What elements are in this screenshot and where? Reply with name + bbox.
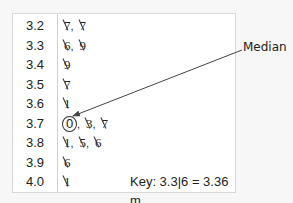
leaf-list: 7,7 [64, 16, 86, 36]
leaf-value: 1 [64, 133, 71, 152]
stem-value: 4.0 [26, 172, 52, 191]
leaf-list: 0,3,7 [64, 114, 108, 134]
leaf-value: 6 [95, 133, 102, 152]
leaf-value: 7 [80, 16, 87, 35]
stem-value: 3.7 [26, 114, 52, 133]
leaf-value: 7 [64, 75, 71, 94]
stem-value: 3.2 [26, 16, 52, 35]
stem-value: 3.3 [26, 36, 52, 55]
stem-value: 3.5 [26, 75, 52, 94]
plot-row: 3.96 [13, 153, 235, 172]
median-label: Median [243, 40, 287, 54]
stem-value: 3.8 [26, 133, 52, 152]
leaf-value: 9 [64, 55, 71, 74]
plot-row: 3.61 [13, 94, 235, 113]
leaf-value: 6 [64, 153, 71, 172]
leaf-list: 1 [64, 94, 71, 113]
leaf-value: 5 [80, 133, 87, 152]
leaf-value: 3 [86, 114, 93, 133]
leaf-value: 7 [102, 114, 109, 133]
stem-value: 3.4 [26, 55, 52, 74]
leaf-value: 9 [80, 36, 87, 55]
leaf-list: 1,5,6 [64, 133, 102, 153]
plot-row: 3.70,3,7 [13, 114, 235, 133]
leaf-list: 7 [64, 75, 71, 94]
plot-row: 3.57 [13, 75, 235, 94]
leaf-value: 1 [64, 94, 71, 113]
leaf-list: 9 [64, 55, 71, 74]
plot-row: 3.81,5,6 [13, 133, 235, 152]
leaf-list: 6,9 [64, 36, 86, 56]
leaf-list: 1 [64, 172, 71, 191]
plot-row: 3.49 [13, 55, 235, 74]
stem-value: 3.9 [26, 153, 52, 172]
leaf-value: 7 [64, 16, 71, 35]
plot-row: 4.01Key: 3.3|6 = 3.36 m [13, 172, 235, 191]
leaf-list: 6 [64, 153, 71, 172]
plot-row: 3.27,7 [13, 16, 235, 35]
plot-key: Key: 3.3|6 = 3.36 m [130, 172, 235, 203]
plot-row: 3.36,9 [13, 36, 235, 55]
stem-value: 3.6 [26, 94, 52, 113]
leaf-value: 1 [64, 172, 71, 191]
leaf-value: 6 [64, 36, 71, 55]
stem-and-leaf-plot: 3.27,73.36,93.493.573.613.70,3,73.81,5,6… [12, 13, 236, 193]
median-leaf: 0 [62, 116, 77, 132]
